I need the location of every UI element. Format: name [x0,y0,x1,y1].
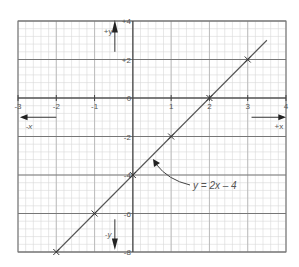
y-positive-label: +y [104,27,113,36]
x-positive-arrow-icon [278,114,286,120]
pointer-arrowhead-icon [153,159,160,167]
x-tick-label: -2 [53,102,61,111]
y-tick-label: -8 [124,248,132,257]
data-series [53,40,267,255]
x-tick-label: 0 [127,94,132,103]
x-negative-label: -x [26,122,34,131]
y-tick-label: +2 [122,56,132,65]
y-tick-label: +4 [122,17,132,26]
y-tick-label: -2 [124,133,132,142]
y-positive-arrow-icon [112,20,118,33]
line-chart: -3-2-101234+4+2-2-4-6-8 +y -y +x -x y = … [0,0,299,267]
x-tick-label: 4 [284,102,289,111]
x-positive-label: +x [275,122,284,131]
x-tick-label: 2 [207,102,212,111]
y-negative-label: -y [105,230,113,239]
y-tick-label: -6 [124,210,132,219]
major-grid [18,21,286,252]
x-negative-arrow-icon [20,114,28,120]
equation-label: y = 2x – 4 [192,180,237,191]
x-tick-label: 1 [169,102,174,111]
x-tick-label: -3 [14,102,22,111]
x-tick-label: -1 [91,102,99,111]
x-tick-label: 3 [245,102,250,111]
function-line [56,40,267,252]
